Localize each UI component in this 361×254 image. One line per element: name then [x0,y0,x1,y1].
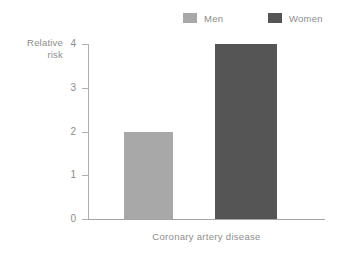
y-tick-label-2: 2 [58,127,76,137]
x-axis-line [88,219,325,220]
y-tick-label-3-wrap: 3 [58,83,76,93]
y-tick-3 [82,88,88,89]
y-tick-1 [82,175,88,176]
y-tick-label-0-wrap: 0 [58,214,76,224]
y-tick-label-3: 3 [58,83,76,93]
y-tick-label-1-wrap: 1 [58,170,76,180]
bar-chart: Men Women Relative risk 4 3 2 [0,0,361,254]
y-tick-label-0: 0 [58,214,76,224]
plot-area: Relative risk 4 3 2 1 0 Coronary [0,0,361,254]
y-tick-label-4-wrap: 4 [58,39,76,49]
y-axis-title: Relative risk [6,37,63,61]
y-tick-2 [82,132,88,133]
y-tick-label-2-wrap: 2 [58,127,76,137]
bar-women [215,44,277,219]
y-axis-line [88,44,89,220]
y-tick-label-1: 1 [58,170,76,180]
y-tick-label-4: 4 [58,39,76,49]
y-tick-4 [82,44,88,45]
y-tick-0 [82,219,88,220]
bar-men [124,132,173,220]
x-axis-title: Coronary artery disease [88,231,325,242]
y-axis-title-line2: risk [6,49,63,61]
